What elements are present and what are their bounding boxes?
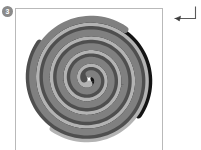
spiral-canvas: [16, 9, 162, 150]
figure-number-badge: 3: [2, 6, 13, 17]
figure-panel: [15, 8, 163, 150]
spiral-figure: [16, 9, 162, 150]
return-arrow-glyph: [170, 5, 198, 25]
return-arrow-icon[interactable]: [170, 5, 198, 25]
screenshot-root: 3: [0, 0, 201, 150]
